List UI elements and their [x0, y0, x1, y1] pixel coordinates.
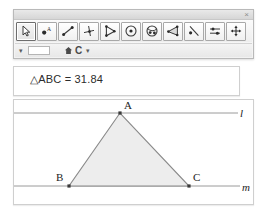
- point-a-marker: [118, 111, 121, 114]
- tool-window: × A: [13, 9, 254, 59]
- angle-tool[interactable]: [163, 22, 183, 41]
- home-icon[interactable]: [62, 44, 74, 57]
- chevron-down-icon-2[interactable]: ▾: [82, 44, 93, 57]
- perpendicular-tool[interactable]: [79, 22, 99, 41]
- measurement-text[interactable]: △ABC = 31.84: [30, 73, 103, 86]
- move-tool[interactable]: [226, 22, 246, 41]
- ray-tool[interactable]: [100, 22, 120, 41]
- triangle-abc: [69, 113, 189, 186]
- style-c-label[interactable]: C: [75, 44, 82, 57]
- select-arrow-tool[interactable]: [16, 22, 36, 41]
- measure-tool[interactable]: [205, 22, 225, 41]
- line-l-label: l: [240, 107, 243, 119]
- line-m-label: m: [242, 181, 250, 193]
- chevron-down-icon[interactable]: ▾: [15, 44, 27, 57]
- toolbar: A: [15, 20, 252, 42]
- ellipse-tool[interactable]: [142, 22, 162, 41]
- style-input[interactable]: [28, 46, 50, 55]
- svg-text:A: A: [47, 26, 51, 32]
- toolbar-spacer: [50, 44, 62, 57]
- line-point-tool[interactable]: [184, 22, 204, 41]
- window-titlebar[interactable]: ×: [14, 10, 253, 20]
- point-c-label: C: [193, 171, 200, 183]
- point-b-label: B: [56, 171, 63, 183]
- point-b-marker: [67, 184, 70, 187]
- circle-tool[interactable]: [121, 22, 141, 41]
- style-toolbar: ▾ C ▾: [15, 43, 252, 57]
- close-icon[interactable]: ×: [242, 10, 251, 19]
- point-tool[interactable]: A: [37, 22, 57, 41]
- point-a-label: A: [124, 100, 132, 111]
- geometry-app-root: × A: [0, 0, 262, 211]
- point-c-marker: [187, 184, 190, 187]
- geometry-canvas[interactable]: A B C l m: [13, 99, 254, 205]
- segment-tool[interactable]: [58, 22, 78, 41]
- measurement-panel: △ABC = 31.84: [13, 66, 240, 96]
